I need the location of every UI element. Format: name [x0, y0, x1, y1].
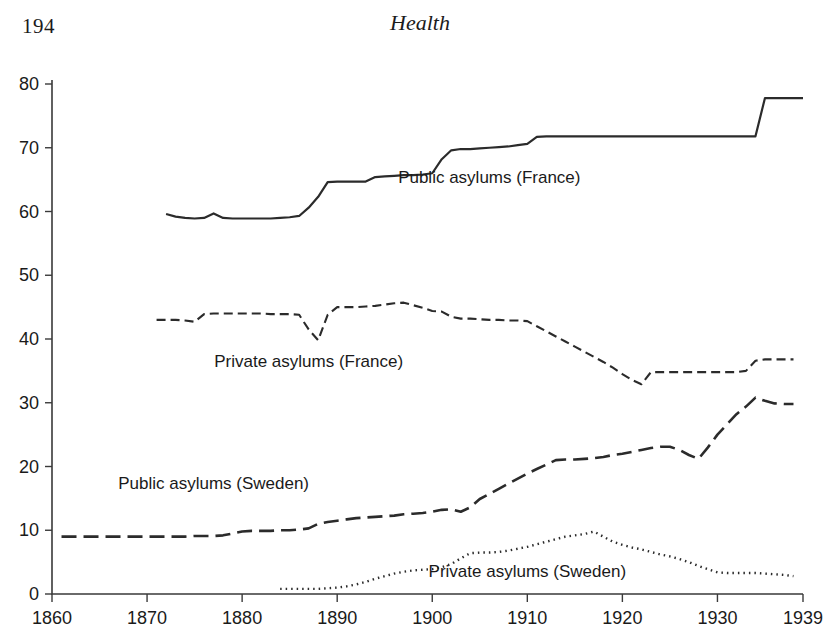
chart-svg: 01020304050607080 1860187018801890190019… [0, 55, 840, 644]
y-tick-label: 70 [19, 138, 39, 158]
y-tick-label: 80 [19, 74, 39, 94]
book-page: 194 Health 01020304050607080 18601870188… [0, 0, 840, 644]
x-axis-ticks: 186018701880189019001910192019301939 [32, 594, 823, 628]
x-tick-label: 1870 [127, 608, 167, 628]
series-annotations: Public asylums (France)Private asylums (… [118, 168, 626, 582]
series-label-2: Public asylums (Sweden) [118, 474, 309, 493]
series-line-2 [62, 398, 794, 537]
y-tick-label: 60 [19, 202, 39, 222]
line-chart: 01020304050607080 1860187018801890190019… [0, 55, 840, 644]
y-tick-label: 0 [29, 584, 39, 604]
series-label-3: Private asylums (Sweden) [429, 562, 626, 581]
x-tick-label: 1910 [507, 608, 547, 628]
series-label-1: Private asylums (France) [214, 352, 403, 371]
x-tick-label: 1930 [697, 608, 737, 628]
y-tick-label: 50 [19, 265, 39, 285]
axis-lines [52, 80, 803, 594]
x-tick-label: 1860 [32, 608, 72, 628]
x-tick-label: 1890 [317, 608, 357, 628]
x-tick-label: 1920 [602, 608, 642, 628]
x-tick-label: 1900 [412, 608, 452, 628]
series-line-0 [166, 98, 803, 218]
y-tick-label: 40 [19, 329, 39, 349]
running-head-title: Health [0, 10, 840, 36]
y-tick-label: 20 [19, 457, 39, 477]
y-tick-label: 30 [19, 393, 39, 413]
x-tick-label: 1939 [783, 608, 823, 628]
y-axis-ticks: 01020304050607080 [19, 74, 52, 604]
y-tick-label: 10 [19, 520, 39, 540]
x-tick-label: 1880 [222, 608, 262, 628]
series-line-1 [157, 303, 794, 385]
series-label-0: Public asylums (France) [398, 168, 580, 187]
